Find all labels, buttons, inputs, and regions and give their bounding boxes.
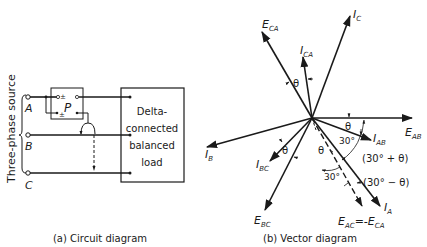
vector-diagram: EAB IAB IA EAC=-ECA EBC IBC IB ECA ICA I…	[205, 8, 422, 244]
label-i-ab: IAB	[373, 132, 386, 147]
angle-tick-30-minus	[344, 183, 348, 186]
circuit-diagram: Three-phase source A B C ± P ±	[5, 74, 184, 244]
alternate-arrow-icon	[93, 166, 96, 171]
label-e-ab: EAB	[405, 126, 422, 141]
load-label-line1: Delta-	[137, 106, 168, 117]
label-e-ac: EAC=-ECA	[338, 215, 385, 230]
meter-polarity-top: ±	[60, 93, 66, 101]
vector-e-bc	[265, 118, 312, 210]
angle-tick-ibc	[280, 139, 282, 142]
angle-theta-ab: θ	[345, 121, 351, 132]
terminal-b	[26, 133, 30, 137]
load-node-a	[129, 96, 132, 99]
angle-theta-a: θ	[318, 145, 324, 156]
terminal-b-label: B	[25, 140, 33, 153]
angle-tick-ebc	[294, 157, 298, 158]
label-i-c: IC	[353, 8, 361, 23]
load-label-line2: connected	[126, 123, 178, 134]
vector-caption: (b) Vector diagram	[263, 233, 357, 244]
vector-i-b	[207, 118, 312, 147]
meter-polarity-bottom: ±	[59, 111, 65, 119]
angle-30-upper: 30°	[339, 136, 355, 146]
circuit-caption: (a) Circuit diagram	[53, 233, 147, 244]
terminal-a	[26, 95, 30, 99]
terminal-c	[26, 171, 30, 175]
vector-e-ac	[312, 118, 362, 206]
angle-theta-ca: θ	[293, 78, 299, 89]
meter-current-out-terminal	[75, 95, 78, 98]
label-e-ca: ECA	[262, 18, 279, 33]
vector-i-c	[312, 16, 350, 118]
angle-tick-eca	[286, 82, 289, 84]
figure-canvas: Three-phase source A B C ± P ±	[0, 0, 427, 247]
angle-30-lower: 30°	[324, 172, 340, 182]
angle-arc-30-lower	[322, 167, 340, 171]
label-i-a: IA	[384, 201, 392, 216]
vector-e-ca	[262, 32, 312, 118]
jumper-hook	[81, 123, 95, 134]
source-label: Three-phase source	[5, 74, 18, 184]
angle-30-minus-theta: (30° − θ)	[363, 177, 409, 188]
label-i-bc: IBC	[256, 158, 269, 173]
meter-label: P	[64, 101, 72, 115]
angle-30-plus-theta: (30° + θ)	[362, 153, 408, 164]
label-e-bc: EBC	[254, 214, 271, 229]
label-i-ca: ICA	[300, 44, 313, 59]
terminal-a-label: A	[24, 102, 33, 115]
load-label-line4: load	[141, 157, 162, 168]
load-node-c	[129, 172, 132, 175]
terminal-c-label: C	[25, 179, 33, 192]
angle-theta-bc: θ	[282, 145, 288, 156]
load-label-line3: balanced	[129, 140, 175, 151]
label-i-b: IB	[205, 148, 213, 163]
